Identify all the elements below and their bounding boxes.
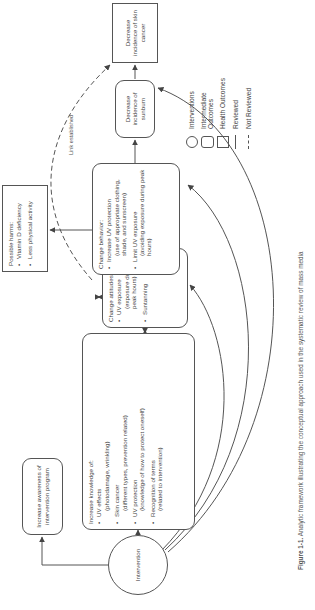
knowledge-item: Recognition of terms(related to interven… [149, 339, 164, 524]
harms-item: Vitamin D deficiency [15, 191, 22, 266]
behavior-list: Increase UV protection(use of appropriat… [105, 169, 152, 269]
intervention-node: Intervention [108, 535, 168, 595]
dashed-line-icon [248, 135, 249, 149]
knowledge-node: Increase knowledge of: UV effects(photod… [82, 333, 195, 530]
harms-item: Less physical activity [26, 191, 33, 266]
behavior-item: Increase UV protection(use of appropriat… [105, 169, 127, 269]
legend-item-intermediate: Intermediate Outcomes [198, 10, 216, 150]
legend: Interventions Intermediate Outcomes Heal… [185, 10, 255, 150]
knowledge-title: Increase knowledge of: [87, 339, 94, 524]
awareness-label: Increase awareness of intervention progr… [35, 464, 50, 529]
rounded-rect-icon [201, 136, 214, 148]
legend-item-health: Health Outcomes [216, 10, 229, 150]
knowledge-item: Skin cancer(different types, prevention … [113, 339, 128, 524]
legend-item-not-reviewed: Not Reviewed [242, 10, 255, 150]
behavior-node: Change behavior: Increase UV protection(… [92, 163, 180, 275]
behavior-item: Limit UV exposure(avoiding exposure duri… [131, 169, 153, 269]
possible-harms-node: Possible harms: Vitamin D deficiency Les… [2, 185, 48, 272]
legend-item-interventions: Interventions [185, 10, 198, 150]
figure-caption: Figure 1-1. Analytic framework illustrat… [297, 0, 304, 570]
caption-prefix: Figure 1-1. [297, 538, 304, 570]
harms-list: Vitamin D deficiency Less physical activ… [15, 191, 33, 266]
skin-cancer-node: Decrease incidence of skin cancer [112, 3, 158, 63]
knowledge-item: UV protection(knowledge of how to protec… [131, 339, 146, 524]
sunburn-node: Decrease incidence of sunburn [115, 80, 155, 138]
caption-text: Analytic framework illustrating the conc… [297, 251, 304, 536]
circle-icon [186, 136, 198, 148]
analytic-framework-diagram: Intervention Increase awareness of inter… [0, 0, 315, 610]
awareness-node: Increase awareness of intervention progr… [22, 458, 63, 535]
legend-item-reviewed: Reviewed [229, 10, 242, 150]
knowledge-list: UV effects(photodamage, wrinkling) Skin … [95, 339, 163, 524]
behavior-title: Change behavior: [97, 169, 104, 269]
link-established-label: Link established [68, 115, 74, 155]
knowledge-item: UV effects(photodamage, wrinkling) [95, 339, 110, 524]
solid-line-icon [235, 135, 236, 149]
skin-cancer-label: Decrease incidence of skin cancer [124, 9, 146, 57]
intervention-label: Intervention [134, 549, 141, 581]
harms-title: Possible harms: [7, 191, 14, 266]
rect-icon [217, 136, 229, 148]
sunburn-label: Decrease incidence of sunburn [124, 86, 146, 132]
